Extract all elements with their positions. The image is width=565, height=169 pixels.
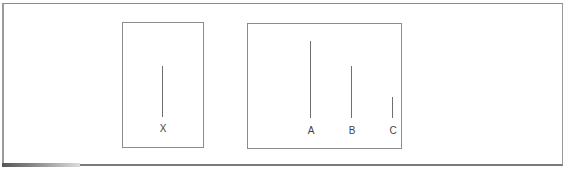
frame-shadow	[2, 163, 80, 167]
label-a: A	[304, 125, 318, 136]
comparison-lines-card: A B C	[247, 23, 402, 149]
line-b	[351, 66, 352, 118]
line-a	[310, 41, 311, 118]
label-x: X	[156, 123, 170, 134]
line-x	[162, 66, 163, 117]
label-b: B	[345, 125, 359, 136]
standard-line-card: X	[122, 22, 204, 148]
label-c: C	[386, 125, 400, 136]
line-c	[392, 97, 393, 118]
